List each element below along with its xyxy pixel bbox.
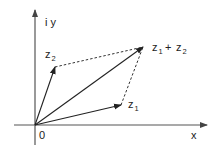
x-axis-label: x xyxy=(191,129,197,141)
vector-z2 xyxy=(35,67,55,125)
svg-text:z: z xyxy=(45,48,51,60)
svg-text:z: z xyxy=(128,98,134,110)
vector-z1 xyxy=(35,105,121,125)
y-axis-label: i y xyxy=(45,16,57,28)
complex-addition-diagram: i y x 0 z 2 z 1 z 1 + z 2 xyxy=(0,0,220,149)
svg-text:1: 1 xyxy=(159,47,163,56)
label-sum: z 1 + z 2 xyxy=(152,41,187,56)
svg-text:+: + xyxy=(165,41,171,53)
svg-text:1: 1 xyxy=(135,104,139,113)
label-z2: z 2 xyxy=(45,48,56,63)
origin-label: 0 xyxy=(39,129,45,141)
dashed-z1-to-sum xyxy=(121,47,143,105)
label-z1: z 1 xyxy=(128,98,139,113)
svg-text:2: 2 xyxy=(52,54,56,63)
svg-text:2: 2 xyxy=(183,47,187,56)
svg-text:z: z xyxy=(176,41,182,53)
svg-text:z: z xyxy=(152,41,158,53)
